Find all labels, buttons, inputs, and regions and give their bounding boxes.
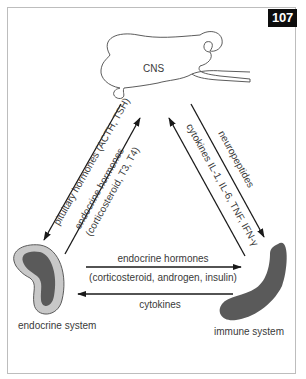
arrow-cns-to-immune [191,104,264,237]
neuro-immune-endocrine-diagram: CNS endocrine system immune system pitui… [0,0,306,379]
arrow-immune-to-cns [169,118,245,256]
cns-label: CNS [143,63,164,74]
label-endocrine-hormones-immune: endocrine hormones [117,253,208,264]
immune-system-label: immune system [214,326,284,337]
label-endocrine-hormones-immune-detail: (corticosteroid, androgen, insulin) [89,272,237,283]
label-cytokines-to-endocrine: cytokines [139,299,181,310]
cns-brain-icon: CNS [101,32,250,99]
endocrine-system-label: endocrine system [18,320,96,331]
endocrine-organ-icon [14,245,64,314]
